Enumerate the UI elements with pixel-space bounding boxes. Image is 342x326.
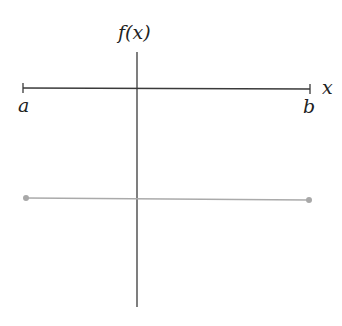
function-segment xyxy=(26,198,309,200)
x-axis xyxy=(23,88,310,89)
endpoint-dot-left xyxy=(23,195,29,201)
endpoint-dot-right xyxy=(306,197,312,203)
x-axis-label: x xyxy=(322,76,333,98)
diagram-canvas: f(x) x a b xyxy=(0,0,342,326)
y-axis-label: f(x) xyxy=(116,21,151,43)
interval-end-label: b xyxy=(303,95,315,117)
interval-start-label: a xyxy=(18,94,29,116)
